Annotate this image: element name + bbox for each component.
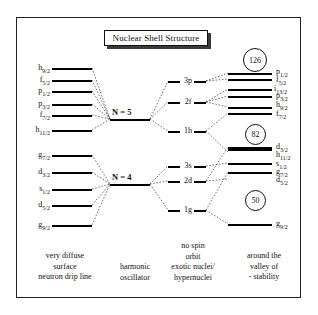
nso-level-label: 2d [181,177,195,185]
nso-level-line [168,166,180,168]
magic-number-value: 82 [252,130,260,139]
left-level-label: h9/2 [24,64,50,75]
right-level-line [228,96,272,98]
right-level-line [228,172,272,174]
nso-level-label: 1g [181,206,195,214]
left-level-line [52,91,92,93]
left-level-line [52,130,92,132]
left-level-label: g9/2 [24,221,50,232]
right-level-line [228,224,272,226]
right-level-line [228,163,272,165]
oscillator-shell-label: N = 5 [112,107,131,117]
column-caption-very-diffuse-surface: very diffuse surface neutron drip line [22,251,108,283]
right-level-line [228,113,272,115]
shell-structure-figure: Nuclear Shell Structure h9/2 f5/2 p1/2 p… [0,0,318,315]
left-level-label: p3/2 [24,100,50,111]
magic-number-value: 126 [249,56,261,65]
nso-level-label: 1h [181,127,195,135]
nso-level-line [168,81,180,83]
nso-level-line [194,81,206,83]
right-level-line [228,73,272,75]
nso-level-line [194,210,206,212]
nso-level-line [168,102,180,104]
left-level-line [52,189,92,191]
left-level-line [52,115,92,117]
column-caption-harmonic-oscillator: harmonic oscillator [106,262,164,283]
left-level-line [52,68,92,70]
oscillator-level-line [110,184,150,186]
nso-level-label: 2f [181,98,195,106]
left-level-label: d3/2 [24,168,50,179]
right-level-label: d5/2 [276,176,288,187]
column-caption-no-spin-orbit: no spin orbit exotic nuclei/ hypernuclei [158,241,228,283]
left-level-line [52,104,92,106]
left-level-label: d5/2 [24,201,50,212]
nso-level-line [168,181,180,183]
left-level-line [52,80,92,82]
magic-number-badge: 82 [245,124,266,145]
left-level-label: s1/2 [24,185,50,196]
right-level-label: g9/2 [276,220,288,231]
nso-level-line [194,166,206,168]
cropped-top-text [34,0,284,8]
right-level-label: f7/2 [276,110,286,121]
right-level-line [228,147,272,151]
right-level-line [228,107,272,109]
left-level-line [52,205,92,207]
nso-level-line [168,210,180,212]
right-level-line [228,89,272,91]
right-level-line [228,79,272,81]
page-title: Nuclear Shell Structure [113,33,200,43]
oscillator-level-line [110,119,150,121]
left-level-label: h11/2 [24,126,50,137]
left-level-label: f5/2 [24,76,50,87]
magic-number-value: 50 [252,196,260,205]
magic-number-badge: 126 [243,48,267,72]
left-level-label: f7/2 [24,111,50,122]
nso-level-line [194,102,206,104]
left-level-line [52,172,92,174]
left-level-label: p1/2 [24,87,50,98]
title-box: Nuclear Shell Structure [104,30,208,46]
column-caption-valley-of-stability: around the valley of - stability [232,251,296,283]
magic-number-badge: 50 [245,190,266,211]
nso-level-line [194,181,206,183]
left-level-line [52,225,92,227]
left-level-label: g7/2 [24,151,50,162]
nso-level-line [194,131,206,133]
left-level-line [52,155,92,157]
nso-level-line [168,131,180,133]
nso-level-label: 3s [181,162,195,170]
nso-level-label: 3p [181,77,195,85]
oscillator-shell-label: N = 4 [112,172,131,182]
